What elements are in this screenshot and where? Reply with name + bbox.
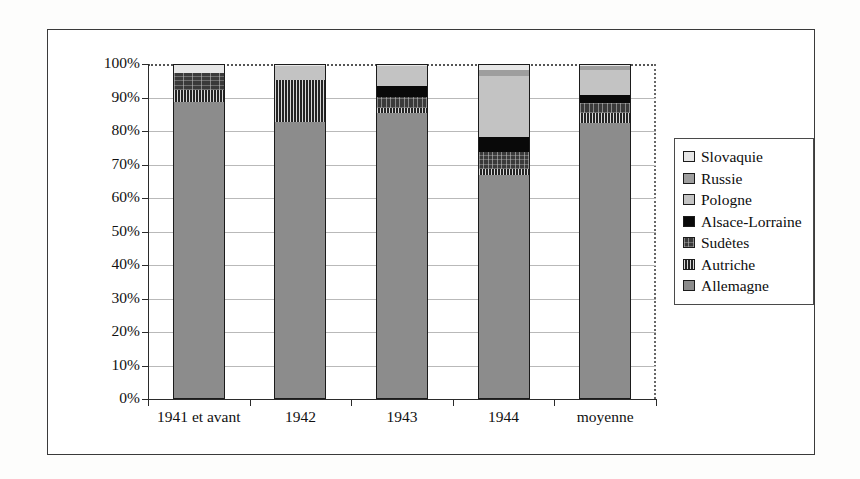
bar-segment-sud-tes[interactable]: [377, 97, 427, 109]
y-axis-line: [148, 64, 149, 400]
y-axis-tick-label: 50%: [0, 222, 140, 240]
y-axis-tick-label: 60%: [0, 188, 140, 206]
y-axis-tick-label: 0%: [0, 389, 140, 407]
y-axis-tick-label: 100%: [0, 54, 140, 72]
legend-label: Slovaquie: [701, 149, 763, 165]
bar-segment-autriche[interactable]: [479, 169, 529, 176]
y-axis-tick-label: 10%: [0, 356, 140, 374]
legend-item[interactable]: Russie: [683, 168, 802, 190]
bar-segment-slovaquie[interactable]: [580, 64, 630, 66]
x-axis-tick: [554, 399, 555, 406]
bar-segment-allemagne[interactable]: [174, 102, 224, 398]
legend-swatch-icon: [683, 280, 695, 291]
x-axis-tick: [148, 399, 149, 406]
bar-segment-autriche[interactable]: [275, 80, 325, 122]
bar-segment-alsace-lorraine[interactable]: [580, 95, 630, 103]
bar-segment-alsace-lorraine[interactable]: [377, 86, 427, 96]
x-axis-tick: [250, 399, 251, 406]
bar-segment-russie[interactable]: [580, 66, 630, 69]
x-axis-tick: [351, 399, 352, 406]
bar-segment-sud-tes[interactable]: [479, 152, 529, 169]
legend-label: Sudètes: [701, 235, 749, 251]
legend-item[interactable]: Pologne: [683, 189, 802, 211]
bar-1943[interactable]: [376, 64, 428, 399]
bar-segment-pologne[interactable]: [275, 66, 325, 79]
bar-segment-allemagne[interactable]: [580, 123, 630, 398]
bar-segment-autriche[interactable]: [377, 108, 427, 113]
x-axis-tick-label: 1943: [387, 408, 418, 426]
legend-item[interactable]: Slovaquie: [683, 146, 802, 168]
legend-swatch-icon: [683, 151, 695, 162]
bar-moyenne[interactable]: [579, 64, 631, 399]
bar-segment-slovaquie[interactable]: [275, 64, 325, 66]
x-axis-tick: [656, 399, 657, 406]
legend-item[interactable]: Autriche: [683, 254, 802, 276]
bar-segment-pologne[interactable]: [580, 70, 630, 95]
bar-segment-russie[interactable]: [479, 70, 529, 77]
bar-1941-et-avant[interactable]: [173, 64, 225, 399]
bar-segment-pologne[interactable]: [479, 76, 529, 136]
bar-segment-autriche[interactable]: [580, 113, 630, 123]
legend-swatch-icon: [683, 237, 695, 248]
x-axis-tick: [453, 399, 454, 406]
y-axis-tick-label: 30%: [0, 289, 140, 307]
bar-segment-allemagne[interactable]: [275, 122, 325, 398]
plot-area: [148, 64, 656, 399]
x-axis-tick-label: moyenne: [577, 408, 634, 426]
legend-swatch-icon: [683, 216, 695, 227]
y-axis-tick-label: 20%: [0, 322, 140, 340]
y-axis-tick-label: 80%: [0, 121, 140, 139]
legend-label: Autriche: [701, 257, 755, 273]
legend-swatch-icon: [683, 173, 695, 184]
y-axis-tick-label: 90%: [0, 88, 140, 106]
y-axis-tick-label: 70%: [0, 155, 140, 173]
chart-legend: SlovaquieRussiePologneAlsace-LorraineSud…: [674, 138, 814, 305]
legend-label: Alsace-Lorraine: [701, 214, 802, 230]
bar-segment-alsace-lorraine[interactable]: [479, 137, 529, 152]
x-axis-tick-label: 1941 et avant: [157, 408, 241, 426]
legend-label: Russie: [701, 171, 742, 187]
bar-1942[interactable]: [274, 64, 326, 399]
bar-segment-sud-tes[interactable]: [580, 103, 630, 113]
bar-segment-allemagne[interactable]: [377, 113, 427, 398]
legend-item[interactable]: Sudètes: [683, 232, 802, 254]
bar-1944[interactable]: [478, 64, 530, 399]
chart-screenshot: 0%10%20%30%40%50%60%70%80%90%100% 1941 e…: [0, 0, 860, 479]
x-axis-line: [148, 399, 657, 400]
bar-segment-slovaquie[interactable]: [377, 64, 427, 66]
legend-item[interactable]: Allemagne: [683, 275, 802, 297]
y-axis-tick-label: 40%: [0, 255, 140, 273]
legend-label: Allemagne: [701, 278, 769, 294]
bar-segment-sud-tes[interactable]: [174, 73, 224, 90]
legend-swatch-icon: [683, 194, 695, 205]
legend-swatch-icon: [683, 259, 695, 270]
bar-segment-pologne[interactable]: [377, 66, 427, 86]
legend-item[interactable]: Alsace-Lorraine: [683, 211, 802, 233]
bar-segment-autriche[interactable]: [174, 90, 224, 102]
legend-label: Pologne: [701, 192, 752, 208]
bar-segment-slovaquie[interactable]: [479, 64, 529, 70]
bar-segment-slovaquie[interactable]: [174, 64, 224, 73]
bar-segment-allemagne[interactable]: [479, 175, 529, 398]
x-axis-tick-label: 1942: [285, 408, 316, 426]
x-axis-tick-label: 1944: [488, 408, 519, 426]
